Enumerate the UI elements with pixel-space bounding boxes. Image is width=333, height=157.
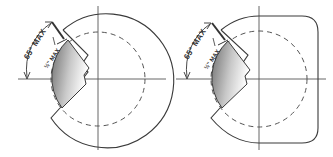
depth-tick xyxy=(213,38,215,46)
cut-edge-marker xyxy=(52,22,64,39)
figure-rounded-square: 65° MAX ½" MAX xyxy=(176,6,326,150)
angle-label: 65° MAX xyxy=(22,27,48,61)
angle-label: 65° MAX xyxy=(182,27,208,61)
figure-round: 65° MAX ½" MAX xyxy=(18,6,174,150)
depth-tick xyxy=(53,37,55,45)
diagram-canvas: 65° MAX ½" MAX 65° MAX ½" MAX xyxy=(0,0,333,157)
